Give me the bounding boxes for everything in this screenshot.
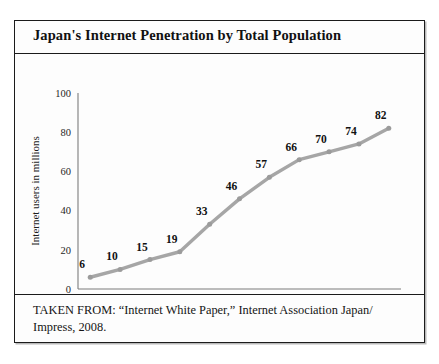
data-point-marker	[118, 267, 123, 272]
figure-caption-bar: TAKEN FROM: “Internet White Paper,” Inte…	[15, 294, 424, 342]
data-point-marker	[207, 222, 212, 227]
figure-frame: Japan's Internet Penetration by Total Po…	[14, 20, 425, 343]
y-axis-tick-label: 60	[61, 166, 72, 177]
data-point-marker	[88, 275, 93, 280]
data-point-label: 46	[226, 180, 238, 192]
chart-plot-region: 020406080100Internet users in millions19…	[15, 54, 424, 296]
y-axis-tick-label: 80	[61, 127, 72, 138]
data-point-marker	[356, 141, 361, 146]
data-point-label: 57	[256, 158, 268, 170]
data-point-marker	[177, 249, 182, 254]
y-axis-tick-label: 100	[55, 88, 71, 99]
data-point-label: 33	[196, 205, 208, 217]
data-point-marker	[147, 257, 152, 262]
data-point-label: 6	[79, 258, 85, 270]
data-point-label: 82	[375, 109, 387, 121]
data-point-marker	[267, 175, 272, 180]
data-point-marker	[327, 149, 332, 154]
data-point-label: 70	[315, 133, 327, 145]
data-series-line	[90, 128, 389, 277]
line-chart: 020406080100Internet users in millions19…	[15, 54, 426, 296]
y-axis-title: Internet users in millions	[29, 136, 41, 246]
figure-title-bar: Japan's Internet Penetration by Total Po…	[15, 21, 424, 54]
data-point-label: 74	[345, 125, 357, 137]
data-point-marker	[237, 196, 242, 201]
figure-source-caption: TAKEN FROM: “Internet White Paper,” Inte…	[33, 302, 405, 336]
page-title: Japan's Internet Penetration by Total Po…	[33, 27, 341, 44]
data-point-label: 19	[166, 233, 178, 245]
y-axis-tick-label: 40	[61, 205, 72, 216]
y-axis-tick-label: 20	[61, 245, 72, 256]
data-point-label: 66	[285, 141, 297, 153]
data-point-marker	[297, 157, 302, 162]
data-point-marker	[386, 126, 391, 131]
data-point-label: 15	[136, 241, 148, 253]
data-point-label: 10	[106, 250, 118, 262]
